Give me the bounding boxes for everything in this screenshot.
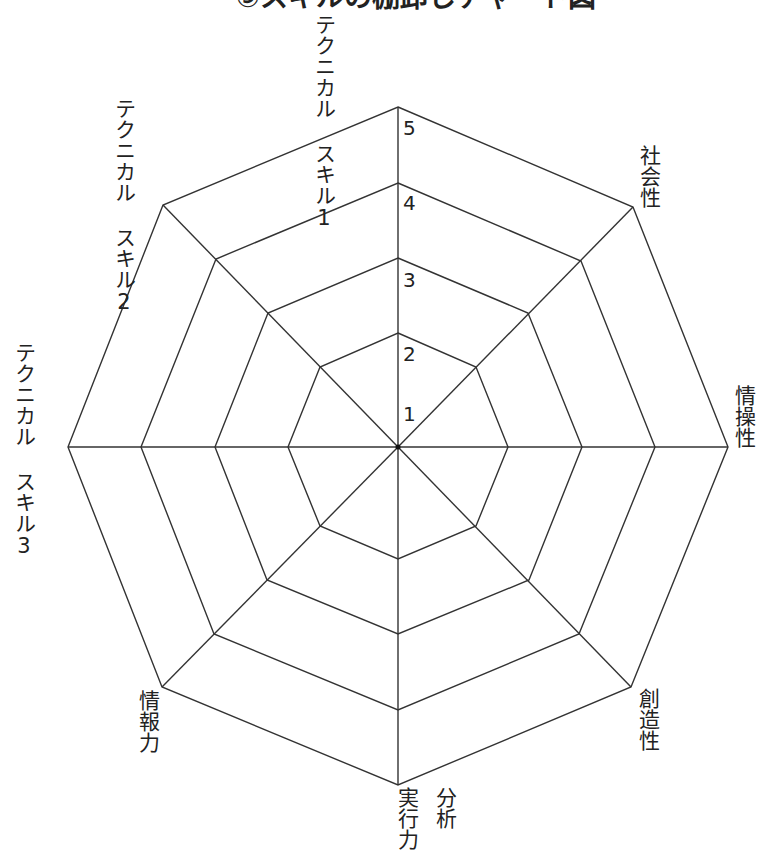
axis-label-creativity: 創造性 — [636, 688, 660, 751]
axis-label-tech2: テクニカル スキル2 — [112, 98, 150, 314]
axis-label-tech2-line1: テクニカル — [112, 98, 136, 203]
tick-5: 5 — [403, 118, 416, 138]
axis-label-tech3: テクニカル スキル3 — [12, 342, 50, 558]
tick-3: 3 — [403, 270, 416, 290]
spoke-tech2 — [163, 205, 398, 447]
axis-label-tech3-line1: テクニカル — [12, 342, 36, 447]
axis-label-analysis-line1: 分析 — [433, 787, 457, 829]
axis-label-emotion: 情操性 — [732, 385, 756, 448]
axis-label-tech2-line2: スキル2 — [112, 227, 136, 314]
axis-label-tech1-line2: スキル1 — [312, 143, 336, 230]
tick-2: 2 — [403, 344, 416, 364]
axis-label-tech3-line2: スキル3 — [12, 471, 36, 558]
axis-label-analysis-line2: 実行力 — [395, 787, 419, 850]
tick-4: 4 — [403, 193, 416, 213]
spoke-social — [398, 207, 633, 447]
center-point — [396, 445, 401, 450]
spoke-creativity — [398, 447, 631, 687]
axis-label-social: 社会性 — [637, 145, 661, 208]
axis-label-analysis: 分析 実行力 — [395, 787, 457, 852]
axis-label-information: 情報力 — [136, 690, 160, 753]
axis-label-tech1-line1: テクニカル — [312, 14, 336, 119]
tick-1: 1 — [403, 404, 416, 424]
spoke-information — [162, 447, 398, 687]
axis-label-tech1: テクニカル スキル1 — [312, 14, 350, 230]
